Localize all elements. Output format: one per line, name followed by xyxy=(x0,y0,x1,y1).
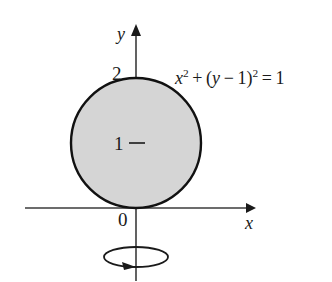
y-tick-label-2: 2 xyxy=(112,64,122,83)
rotation-ellipse-left xyxy=(104,247,136,267)
equation-minus: − xyxy=(224,68,234,88)
equation-rhs: 1 xyxy=(275,68,284,88)
y-tick-label-1: 1 xyxy=(114,134,124,153)
rotation-arrowhead xyxy=(122,262,136,270)
equation-var-y: y xyxy=(212,68,220,88)
x-axis-arrowhead xyxy=(246,203,256,213)
origin-label: 0 xyxy=(118,210,128,229)
rotation-ellipse-right xyxy=(136,247,168,267)
equation-plus: + xyxy=(192,68,202,88)
y-axis-label: y xyxy=(117,25,125,43)
circle-equation-label: x2 + (y − 1)2 = 1 xyxy=(175,68,284,87)
equation-exponent-group: 2 xyxy=(252,67,258,79)
equation-equals: = xyxy=(262,68,272,88)
revolution-solid-diagram: y x 2 1 0 x2 + (y − 1)2 = 1 xyxy=(0,0,332,282)
x-axis-label: x xyxy=(245,214,253,232)
equation-exponent-x: 2 xyxy=(183,67,189,79)
diagram-canvas xyxy=(0,0,332,282)
equation-var-x: x xyxy=(175,68,183,88)
y-axis-arrowhead xyxy=(131,24,141,36)
